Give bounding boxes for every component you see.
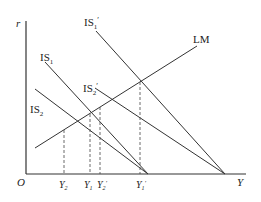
y-axis-label: r: [16, 17, 21, 29]
tick-y1: Y1: [84, 179, 93, 191]
is2-prime-curve: [95, 88, 225, 174]
is1-curve: [45, 62, 148, 174]
is2-curve: [35, 89, 148, 174]
is2-label: IS2: [30, 103, 44, 118]
lm-curve: [35, 46, 197, 148]
tick-y1-prime: Y1′: [136, 179, 147, 191]
tick-y2: Y2: [59, 179, 68, 191]
lm-label: LM: [193, 33, 210, 45]
is1-prime-label: IS1′: [84, 16, 99, 31]
origin-label: O: [17, 176, 25, 188]
is2-prime-label: IS2′: [83, 82, 98, 97]
tick-y2-prime: Y2′: [97, 179, 108, 191]
is-lm-diagram: r O Y IS1′ LM IS1 IS2′ IS2 Y2 Y1 Y2′ Y1′: [0, 0, 261, 202]
x-axis-label: Y: [237, 176, 245, 188]
is1-prime-curve: [96, 31, 225, 174]
